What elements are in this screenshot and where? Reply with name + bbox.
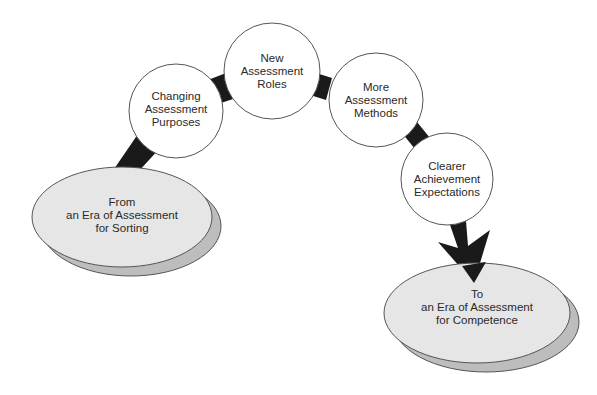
step-label-line-3: Roles	[257, 78, 287, 90]
step-label-line-1: New	[260, 52, 284, 64]
end-label-line-3: for Competence	[436, 314, 518, 326]
end-label-line-2: an Era of Assessment	[421, 301, 534, 313]
start-label-line-3: for Sorting	[95, 222, 148, 234]
step-label-line-2: Assessment	[145, 103, 208, 115]
step-label-line-3: Methods	[354, 107, 398, 119]
step-label-line-2: Assessment	[241, 65, 304, 77]
assessment-transition-diagram: From an Era of Assessment for Sorting Ch…	[0, 0, 597, 395]
start-label-line-1: From	[109, 196, 136, 208]
end-node: To an Era of Assessment for Competence	[384, 262, 579, 372]
step-node-expectations: Clearer Achievement Expectations	[401, 133, 493, 225]
step-label-line-1: Changing	[151, 90, 200, 102]
end-label-line-1: To	[471, 288, 483, 300]
step-node-purposes: Changing Assessment Purposes	[129, 64, 223, 158]
step-node-methods: More Assessment Methods	[329, 53, 423, 147]
step-label-line-2: Achievement	[414, 173, 481, 185]
step-label-line-3: Purposes	[152, 116, 201, 128]
step-label-line-2: Assessment	[345, 94, 408, 106]
end-node-face	[384, 263, 570, 363]
start-label-line-2: an Era of Assessment	[66, 209, 179, 221]
start-node: From an Era of Assessment for Sorting	[32, 167, 221, 276]
step-label-line-1: Clearer	[428, 160, 466, 172]
step-label-line-1: More	[363, 81, 389, 93]
step-label-line-3: Expectations	[414, 186, 480, 198]
step-node-roles: New Assessment Roles	[224, 23, 320, 119]
